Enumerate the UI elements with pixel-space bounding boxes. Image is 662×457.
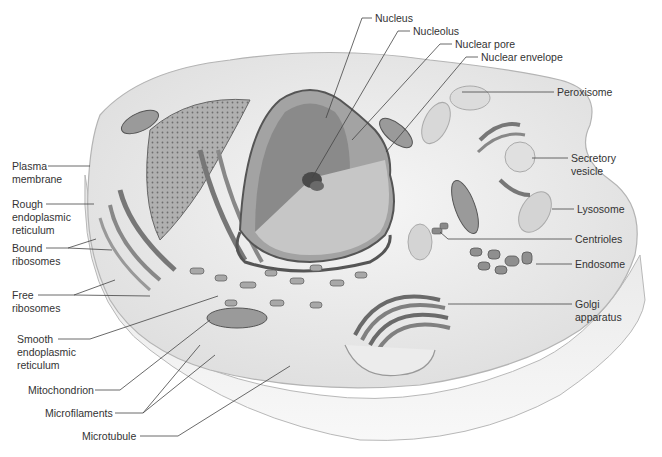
label-endosome: Endosome — [575, 258, 625, 271]
mitochondrion-shape — [207, 308, 267, 328]
label-lysosome: Lysosome — [577, 203, 624, 216]
label-secretory-vesicle: Secretory vesicle — [571, 152, 616, 178]
label-centrioles: Centrioles — [575, 233, 622, 246]
label-nuclear-pore: Nuclear pore — [455, 38, 515, 51]
label-free-ribosomes: Free ribosomes — [12, 289, 60, 315]
animal-cell-diagram — [0, 0, 662, 457]
label-nucleus: Nucleus — [375, 12, 413, 25]
label-smooth-er: Smooth endoplasmic reticulum — [17, 333, 76, 372]
secretory-vesicle-shape — [505, 142, 535, 172]
label-nucleolus: Nucleolus — [413, 25, 459, 38]
label-mitochondrion: Mitochondrion — [28, 384, 94, 397]
label-microfilaments: Microfilaments — [45, 407, 113, 420]
peroxisome-shape — [450, 86, 490, 110]
label-golgi-apparatus: Golgi apparatus — [575, 298, 622, 324]
label-microtubule: Microtubule — [82, 430, 136, 443]
label-bound-ribosomes: Bound ribosomes — [12, 242, 60, 268]
label-peroxisome: Peroxisome — [557, 86, 612, 99]
label-nuclear-envelope: Nuclear envelope — [481, 51, 563, 64]
label-plasma-membrane: Plasma membrane — [12, 160, 62, 186]
label-rough-er: Rough endoplasmic reticulum — [12, 198, 71, 237]
